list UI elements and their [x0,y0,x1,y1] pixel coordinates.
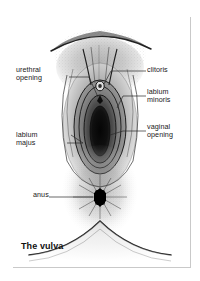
label-urethral-opening: urethral opening [16,66,42,83]
figure-title: The vulva [21,241,63,251]
label-clitoris: clitoris [147,66,168,74]
label-labium-majus: labium majus [16,131,37,148]
label-labium-minoris: labium minoris [147,88,171,105]
label-vaginal-opening: vaginal opening [147,123,173,140]
label-labium-majus-line2: majus [16,139,37,147]
figure-root: urethral opening clitoris labium minoris… [0,0,200,281]
label-clitoris-line1: clitoris [147,66,168,74]
vulva-anatomical-illustration [11,15,189,266]
label-urethral-opening-line2: opening [16,74,42,82]
label-anus: anus [33,191,49,199]
label-vaginal-opening-line2: opening [147,131,173,139]
label-labium-minoris-line2: minoris [147,96,171,104]
label-anus-line1: anus [33,191,49,199]
